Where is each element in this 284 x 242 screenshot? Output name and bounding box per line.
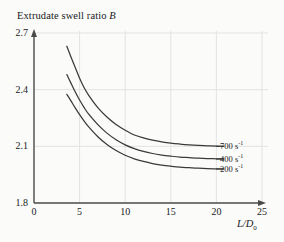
x-tick-20: 20 [206,206,226,217]
data-curves [67,46,224,169]
gridlines [34,31,268,203]
x-tick-0: 0 [24,206,44,217]
curve-700-s-1 [67,46,224,146]
x-axis-title-sub: 0 [253,224,257,232]
y-tick-2.1: 2.1 [6,140,28,151]
legend-label-text: 700 s [220,141,238,151]
x-tick-5: 5 [70,206,90,217]
legend-item-200-s-1: 200 s-1 [220,163,243,174]
x-axis-title: L/D0 [237,218,257,232]
y-tick-2.7: 2.7 [6,27,28,38]
x-tick-25: 25 [252,206,272,217]
legend-label-exponent: -1 [238,153,243,159]
axes [31,29,266,206]
figure-container: Extrudate swell ratio B 1.82.12.42.7 051… [0,0,284,242]
y-tick-2.4: 2.4 [6,84,28,95]
x-tick-10: 10 [115,206,135,217]
x-tick-15: 15 [161,206,181,217]
legend-item-700-s-1: 700 s-1 [220,140,243,151]
legend-label-exponent: -1 [238,140,243,146]
legend-label-exponent: -1 [238,163,243,169]
x-axis-title-main: L/D [237,218,253,229]
legend-label-text: 200 s [220,164,238,174]
